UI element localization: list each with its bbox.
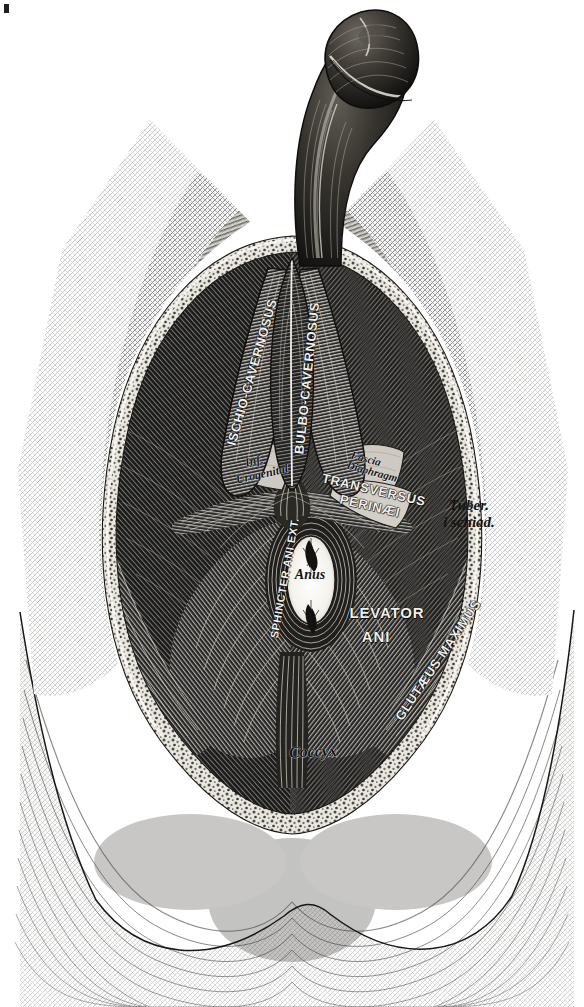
anatomical-plate: ISCHIO-CAVERNOSUSBULBO-CAVERNOSUSInf.Uro… — [0, 0, 584, 1007]
paper-grain — [0, 0, 584, 1007]
engraving-canvas — [0, 0, 584, 1007]
